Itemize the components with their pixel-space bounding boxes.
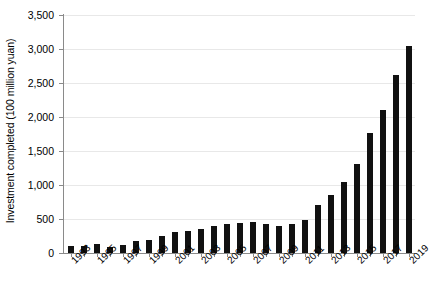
y-tick-label: 2,000 [12, 112, 54, 123]
bar [380, 110, 386, 253]
bar [250, 222, 256, 253]
bar [302, 220, 308, 253]
bar [328, 195, 334, 253]
bar [198, 229, 204, 253]
bar [120, 245, 126, 254]
y-tick-label: 3,000 [12, 44, 54, 55]
bar [68, 246, 74, 253]
bar [224, 224, 230, 253]
y-tick-label: 500 [12, 214, 54, 225]
bar [146, 240, 152, 253]
bar [172, 232, 178, 253]
y-tick-label: 0 [12, 248, 54, 259]
y-tick-label: 2,500 [12, 78, 54, 89]
y-tick-label: 3,500 [12, 10, 54, 21]
bar [94, 244, 100, 253]
bar [393, 75, 399, 253]
bar [354, 164, 360, 253]
bar [406, 46, 412, 253]
y-axis-title-text: Investment completed (100 million yuan) [4, 39, 16, 224]
bar [276, 226, 282, 253]
y-tick-label: 1,000 [12, 180, 54, 191]
y-tick-label: 1,500 [12, 146, 54, 157]
plot-area [64, 15, 415, 253]
bar [367, 133, 373, 253]
